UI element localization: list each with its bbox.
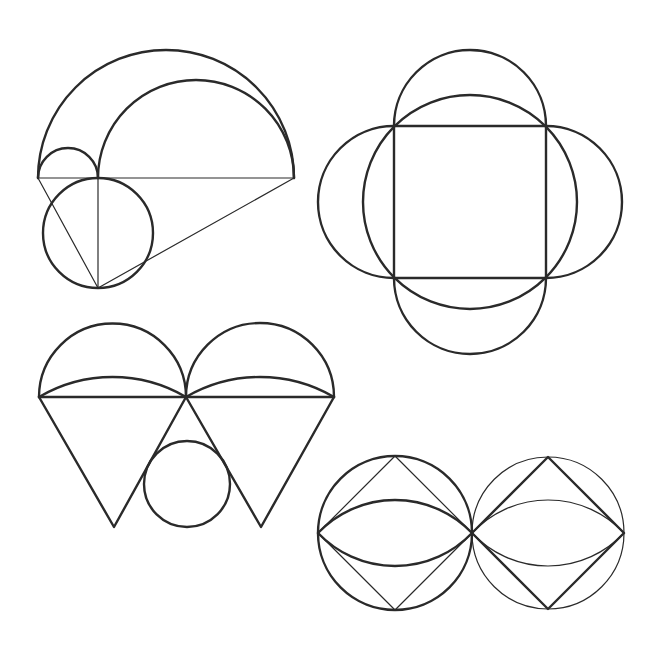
right-chord <box>98 178 294 288</box>
right-circle <box>472 457 624 609</box>
figure-cones <box>39 323 334 527</box>
right-diamond <box>472 457 624 609</box>
middle-circle <box>144 441 230 527</box>
left-triangle <box>39 397 186 527</box>
outer-semicircle <box>38 50 294 178</box>
left-circle <box>318 456 472 610</box>
small-semicircle <box>38 148 98 178</box>
right-petal <box>546 126 622 278</box>
figure-arbelos <box>38 50 294 288</box>
top-petal <box>394 50 546 126</box>
figure-square-petals <box>318 50 622 354</box>
right-lens-arc <box>186 377 334 397</box>
square <box>394 126 546 278</box>
right-triangle <box>186 397 334 527</box>
left-petal <box>318 126 394 278</box>
figure-twin-circles <box>318 456 624 610</box>
geometry-drawing <box>0 0 662 654</box>
left-lens-arc <box>39 377 186 397</box>
geometry-canvas <box>0 0 662 654</box>
bottom-petal <box>394 278 546 354</box>
left-chord <box>38 178 98 288</box>
